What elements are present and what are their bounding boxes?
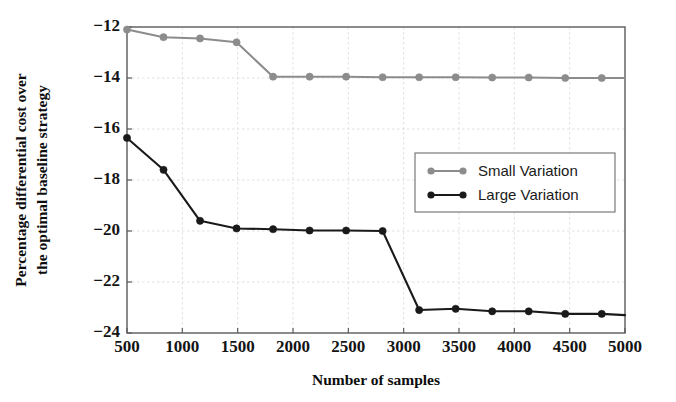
data-point: [452, 305, 459, 312]
y-tick-label: −20: [93, 220, 120, 239]
data-point: [160, 166, 167, 173]
data-point: [196, 35, 203, 42]
y-axis-label: Percentage differential cost over the op…: [12, 73, 50, 286]
legend-marker-icon: [459, 191, 466, 198]
y-axis-label-line1: Percentage differential cost over: [12, 73, 29, 286]
chart-figure: −24−22−20−18−16−14−12 500100015002000250…: [0, 0, 676, 402]
data-point: [233, 39, 240, 46]
data-point: [598, 74, 605, 81]
data-point: [343, 227, 350, 234]
legend-marker-icon: [427, 191, 434, 198]
x-tick-label: 3000: [387, 337, 421, 356]
data-point: [489, 74, 496, 81]
x-axis-tick-labels: 500100015002000250030003500400045005000: [114, 337, 642, 356]
data-point: [123, 26, 130, 33]
x-tick-label: 5000: [608, 337, 642, 356]
chart-legend[interactable]: Small VariationLarge Variation: [415, 153, 615, 212]
data-point: [160, 34, 167, 41]
data-point: [379, 74, 386, 81]
data-point: [562, 310, 569, 317]
x-tick-label: 3500: [442, 337, 476, 356]
data-point: [525, 308, 532, 315]
legend-label: Large Variation: [478, 186, 579, 203]
data-point: [269, 73, 276, 80]
data-point: [233, 225, 240, 232]
x-tick-label: 500: [114, 337, 140, 356]
x-tick-label: 2000: [276, 337, 310, 356]
data-point: [416, 74, 423, 81]
x-tick-label: 4500: [553, 337, 587, 356]
y-axis-tick-labels: −24−22−20−18−16−14−12: [93, 16, 120, 341]
data-point: [306, 227, 313, 234]
x-tick-label: 4000: [497, 337, 531, 356]
legend-label: Small Variation: [478, 162, 578, 179]
data-point: [598, 310, 605, 317]
legend-marker-icon: [459, 167, 466, 174]
y-tick-label: −22: [93, 271, 120, 290]
legend-marker-icon: [427, 167, 434, 174]
data-point: [416, 306, 423, 313]
x-axis-label: Number of samples: [312, 371, 440, 388]
line-chart-canvas: −24−22−20−18−16−14−12 500100015002000250…: [0, 0, 676, 402]
x-tick-label: 1500: [221, 337, 255, 356]
data-point: [123, 134, 130, 141]
data-point: [452, 74, 459, 81]
data-point: [343, 73, 350, 80]
data-point: [269, 226, 276, 233]
y-tick-label: −18: [93, 169, 120, 188]
data-point: [306, 73, 313, 80]
x-tick-label: 1000: [165, 337, 199, 356]
data-point: [489, 308, 496, 315]
y-tick-label: −12: [93, 16, 120, 35]
data-point: [379, 227, 386, 234]
series-small-variation: [123, 26, 625, 82]
x-tick-label: 2500: [331, 337, 365, 356]
y-axis-label-line2: the optimal baseline strategy: [33, 85, 50, 275]
y-tick-label: −14: [93, 67, 120, 86]
data-point: [562, 74, 569, 81]
data-point: [196, 217, 203, 224]
data-point: [525, 74, 532, 81]
y-tick-label: −16: [93, 118, 120, 137]
